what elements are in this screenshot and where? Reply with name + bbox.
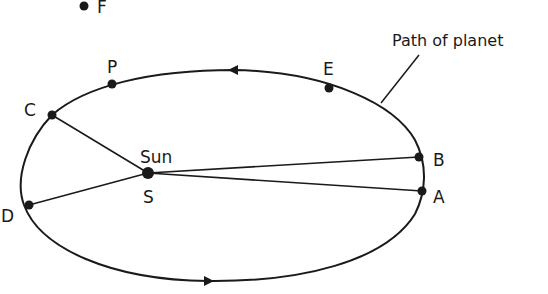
label-c: C — [24, 100, 36, 120]
point-f-dot — [80, 2, 89, 11]
label-d: D — [1, 206, 14, 226]
line-s-c — [52, 115, 148, 173]
line-s-d — [29, 173, 148, 205]
point-d-dot — [25, 201, 34, 210]
point-e-dot — [325, 84, 334, 93]
label-a: A — [433, 187, 445, 207]
label-sun: Sun — [140, 147, 172, 167]
label-e: E — [323, 59, 334, 79]
direction-arrow-bottom-icon — [204, 276, 214, 286]
caption-path-of-planet: Path of planet — [392, 31, 503, 50]
direction-arrow-top-icon — [228, 65, 238, 75]
orbit-path — [21, 70, 424, 281]
caption-leader-line — [381, 55, 419, 103]
label-b: B — [433, 150, 445, 170]
label-p: P — [107, 57, 117, 77]
point-c-dot — [48, 111, 57, 120]
point-a-dot — [418, 187, 427, 196]
orbit-diagram: F P C D E B A Sun S Path of planet — [0, 0, 548, 294]
line-s-a — [148, 173, 422, 191]
label-f: F — [97, 0, 107, 17]
point-p-dot — [108, 80, 117, 89]
label-s: S — [143, 187, 154, 207]
point-b-dot — [415, 153, 424, 162]
line-s-b — [148, 157, 419, 173]
sun-dot — [142, 167, 154, 179]
